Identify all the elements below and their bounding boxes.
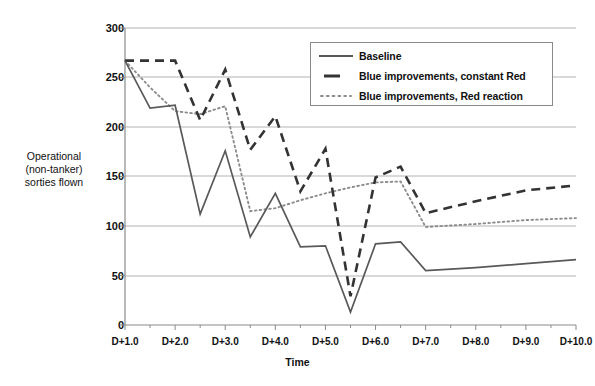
x-tick-label-1: D+1.0 <box>97 336 153 347</box>
x-tick-label-8: D+8.0 <box>448 336 504 347</box>
chart-legend: Baseline Blue improvements, constant Red… <box>310 42 553 106</box>
legend-item-red-reaction: Blue improvements, Red reaction <box>319 87 523 105</box>
x-tick-label-3: D+3.0 <box>197 336 253 347</box>
x-tick-label-2: D+2.0 <box>147 336 203 347</box>
legend-label-red-reaction: Blue improvements, Red reaction <box>359 90 523 102</box>
legend-label-baseline: Baseline <box>359 50 401 62</box>
y-tick-marks <box>120 28 125 325</box>
legend-item-baseline: Baseline <box>319 47 401 65</box>
legend-label-constant-red: Blue improvements, constant Red <box>359 70 526 82</box>
x-tick-label-9: D+9.0 <box>498 336 554 347</box>
x-tick-label-7: D+7.0 <box>398 336 454 347</box>
x-tick-label-6: D+6.0 <box>348 336 404 347</box>
x-axis-title: Time <box>0 356 595 368</box>
legend-item-constant-red: Blue improvements, constant Red <box>319 67 526 85</box>
chart-figure: Operational (non-tanker) sorties flown 3… <box>0 0 595 386</box>
legend-swatch-solid-icon <box>319 50 353 62</box>
x-tick-label-10: D+10.0 <box>548 336 595 347</box>
legend-swatch-dotted-icon <box>319 90 353 102</box>
x-tick-label-5: D+5.0 <box>297 336 353 347</box>
x-tick-label-4: D+4.0 <box>247 336 303 347</box>
x-tick-marks <box>125 325 576 330</box>
legend-swatch-dashed-icon <box>319 70 353 82</box>
